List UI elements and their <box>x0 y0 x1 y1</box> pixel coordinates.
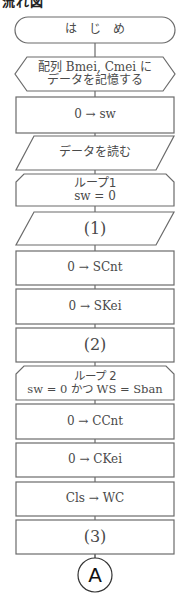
read-data-label: データを読む <box>16 136 174 170</box>
start-label: は じ め <box>16 17 174 43</box>
loop2-condition: sw = 0 かつ WS = Sban <box>27 383 162 396</box>
init-scnt-label: 0 → SCnt <box>16 251 174 285</box>
init-ccnt-label: 0 → CCnt <box>16 404 174 439</box>
init-sw-label: 0 → sw <box>16 97 174 133</box>
loop1-condition: sw = 0 <box>74 190 116 203</box>
assign-wc-label: Cls → WC <box>16 482 174 516</box>
step3-label: (3) <box>16 520 174 554</box>
init-ckei-label: 0 → CKei <box>16 443 174 477</box>
init-skei-label: 0 → SKei <box>16 289 174 324</box>
step2-label: (2) <box>16 328 174 362</box>
loop1-label: ループ1 sw = 0 <box>16 174 174 206</box>
loop2-label: ループ 2 sw = 0 かつ WS = Sban <box>16 366 174 400</box>
step1-label: (1) <box>16 212 174 245</box>
connector-label: A <box>78 558 112 592</box>
prep-line-2: データを記憶する <box>47 74 143 87</box>
prep-label: 配列 Bmei, Cmei に データを記憶する <box>16 57 174 91</box>
